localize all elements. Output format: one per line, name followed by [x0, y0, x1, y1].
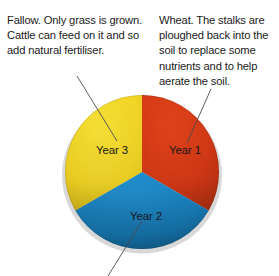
pie-slice-label-year3: Year 3: [96, 144, 128, 156]
annotation-fallow: Fallow. Only grass is grown. Cattle can …: [7, 13, 143, 59]
pie-slice-label-year1: Year 1: [169, 144, 201, 156]
annotation-wheat: Wheat. The stalks are ploughed back into…: [159, 13, 279, 89]
pie-slice-label-year2: Year 2: [130, 210, 162, 222]
